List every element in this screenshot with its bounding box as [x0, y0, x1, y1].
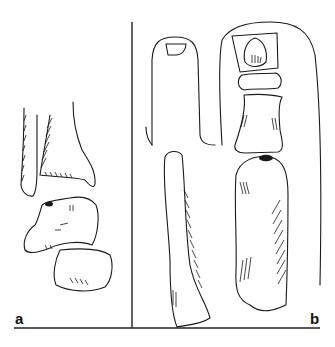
great-toe: [220, 22, 321, 285]
panel-b-drawing: [146, 22, 321, 327]
panel-label-a: a: [15, 311, 23, 326]
middle-phalanx: [238, 73, 281, 90]
anatomical-figure: [0, 0, 335, 347]
talus: [24, 197, 98, 253]
fibula: [21, 108, 37, 196]
panel-label-b: b: [310, 311, 319, 326]
tibia: [40, 102, 95, 187]
toenail: [166, 44, 186, 55]
first-metatarsal: [235, 155, 288, 311]
sesamoid-dark-spot: [259, 155, 273, 161]
second-metatarsal: [164, 151, 210, 327]
talus-dark-spot: [45, 202, 53, 207]
panel-a-drawing: [21, 102, 112, 291]
second-toe: [146, 37, 215, 145]
calcaneus: [45, 245, 112, 291]
